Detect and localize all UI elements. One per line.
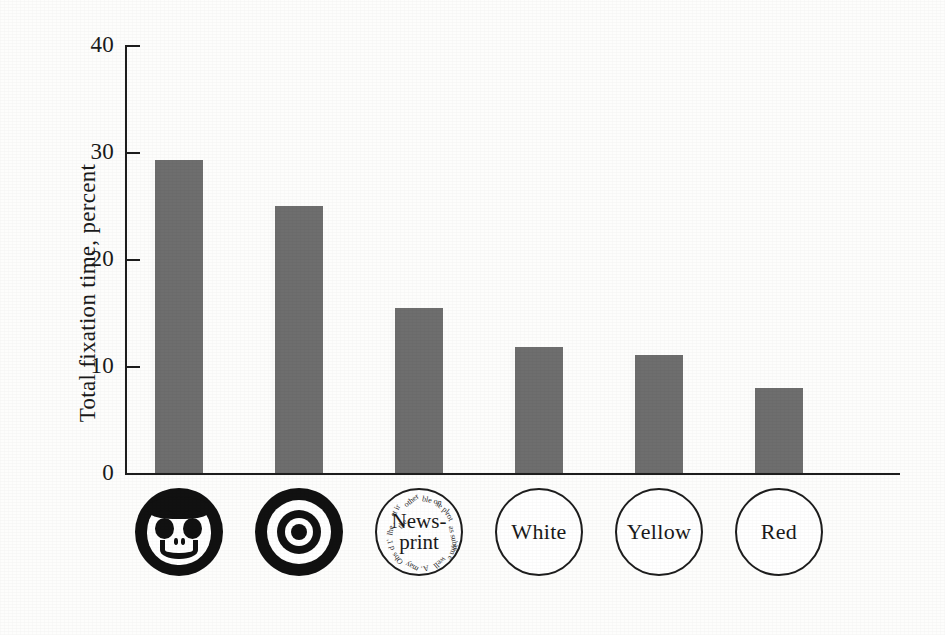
y-tick-label-40: 40 <box>70 33 114 56</box>
y-axis-title: Total fixation time, percent <box>75 128 101 458</box>
category-icon-red: Red <box>735 488 823 576</box>
bar-face <box>155 160 203 474</box>
y-tick-label-20: 20 <box>70 247 114 270</box>
bar-yellow <box>635 355 683 473</box>
category-icon-bullseye <box>255 488 343 576</box>
category-label-white: White <box>495 488 583 576</box>
category-icon-white: White <box>495 488 583 576</box>
y-tick-label-0-wrap: 0 <box>62 461 114 485</box>
y-tick-label-0: 0 <box>70 461 114 484</box>
figure: Total fixation time, percent 40 30 20 10… <box>0 0 945 635</box>
bar-red <box>755 388 803 473</box>
y-tick-mark-10 <box>127 366 140 368</box>
smile-mouth <box>160 540 198 559</box>
y-tick-mark-0 <box>127 473 140 475</box>
category-icon-yellow: Yellow <box>615 488 703 576</box>
category-label-yellow: Yellow <box>615 488 703 576</box>
y-tick-label-40-wrap: 40 <box>62 33 114 57</box>
category-icon-newsprint: other ble on se pl rot et ir lhe . d 1' … <box>375 488 463 576</box>
bullseye-target-icon <box>255 488 343 576</box>
eye-left <box>155 518 174 539</box>
y-tick-mark-20 <box>127 259 140 261</box>
newsprint-circle-icon: other ble on se pl rot et ir lhe . d 1' … <box>375 488 463 576</box>
category-label-red: Red <box>735 488 823 576</box>
newsprint-label-line1: News- <box>392 511 447 532</box>
category-icon-face <box>135 488 223 576</box>
y-tick-mark-30 <box>127 152 140 154</box>
x-axis-line <box>125 473 900 475</box>
y-tick-label-10: 10 <box>70 354 114 377</box>
y-tick-label-30: 30 <box>70 140 114 163</box>
smiley-face-icon <box>135 488 223 576</box>
eye-right <box>183 518 202 539</box>
newsprint-label-line2: print <box>399 532 439 553</box>
bar-white <box>515 347 563 473</box>
y-tick-mark-40 <box>127 45 140 47</box>
y-tick-label-10-wrap: 10 <box>62 354 114 378</box>
y-tick-label-30-wrap: 30 <box>62 140 114 164</box>
bar-bullseye <box>275 206 323 474</box>
bar-newsprint <box>395 308 443 473</box>
bullseye-center-dot <box>291 524 307 540</box>
y-tick-label-20-wrap: 20 <box>62 247 114 271</box>
newsprint-label: News- print <box>377 490 461 574</box>
plot-area: Total fixation time, percent 40 30 20 10… <box>0 0 945 635</box>
